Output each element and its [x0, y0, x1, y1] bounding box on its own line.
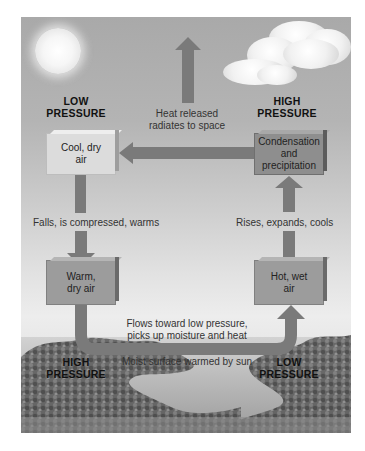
- box-label-line: dry air: [66, 283, 95, 295]
- caption-line: radiates to space: [131, 120, 243, 132]
- box-side-face: [323, 257, 327, 301]
- box-cool-dry-air: Cool, dry air: [46, 133, 116, 175]
- box-label: Cool, dry air: [61, 142, 101, 166]
- caption-falls: Falls, is compressed, warms: [33, 217, 173, 229]
- caption-line: Heat released: [131, 108, 243, 120]
- caption-rises: Rises, expands, cools: [236, 217, 346, 229]
- heat-up-arrow: [175, 37, 201, 103]
- box-label-line: air: [271, 283, 308, 295]
- box-label-line: Warm,: [66, 271, 95, 283]
- box-label: Condensation and precipitation: [258, 136, 320, 172]
- up-arrow-head-right: [275, 176, 303, 212]
- pressure-word: LOW: [41, 95, 111, 107]
- caption-line: picks up moisture and heat: [119, 330, 255, 342]
- box-label-line: air: [61, 154, 101, 166]
- box-top-face: [258, 130, 330, 134]
- pressure-label-bottom-left: HIGH PRESSURE: [41, 356, 111, 380]
- box-warm-dry-air: Warm, dry air: [46, 260, 116, 305]
- box-side-face: [115, 130, 119, 171]
- pressure-word: HIGH: [41, 356, 111, 368]
- box-top-face: [258, 257, 330, 261]
- box-side-face: [323, 130, 327, 171]
- caption-line: Flows toward low pressure,: [119, 318, 255, 330]
- box-top-face: [50, 257, 122, 261]
- box-label-line: Cool, dry: [61, 142, 101, 154]
- pressure-label-top-right: HIGH PRESSURE: [247, 95, 327, 119]
- box-label-line: Condensation: [258, 136, 320, 148]
- pressure-word: HIGH: [247, 95, 327, 107]
- pressure-label-bottom-right: LOW PRESSURE: [249, 356, 329, 380]
- pressure-word: LOW: [249, 356, 329, 368]
- box-condensation: Condensation and precipitation: [254, 133, 324, 175]
- box-label: Hot, wet air: [271, 271, 308, 295]
- cloud-icon: [217, 17, 351, 95]
- box-top-face: [50, 130, 122, 134]
- up-arrow-shaft-lower: [283, 231, 295, 259]
- diagram-frame: LOW PRESSURE HIGH PRESSURE Heat released…: [21, 17, 351, 433]
- pressure-word: PRESSURE: [249, 368, 329, 380]
- caption-heat-released: Heat released radiates to space: [131, 108, 243, 132]
- box-label: Warm, dry air: [66, 271, 95, 295]
- down-arrow-shaft-upper: [75, 175, 86, 213]
- sun-icon: [35, 28, 81, 74]
- box-label-line: Hot, wet: [271, 271, 308, 283]
- left-arrow-top: [119, 142, 255, 164]
- pressure-word: PRESSURE: [247, 107, 327, 119]
- box-side-face: [115, 257, 119, 301]
- pressure-word: PRESSURE: [41, 368, 111, 380]
- pressure-label-top-left: LOW PRESSURE: [41, 95, 111, 119]
- box-label-line: precipitation: [258, 160, 320, 172]
- pressure-word: PRESSURE: [41, 107, 111, 119]
- caption-surface: Moist surface warmed by sun: [117, 356, 257, 368]
- caption-flows: Flows toward low pressure, picks up mois…: [119, 318, 255, 342]
- box-hot-wet-air: Hot, wet air: [254, 260, 324, 305]
- box-label-line: and: [258, 148, 320, 160]
